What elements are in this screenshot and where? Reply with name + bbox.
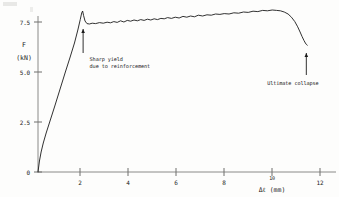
annotation-ultimate-collapse: Ultimate collapse xyxy=(267,53,318,87)
x-axis-title: Δℓ (mm) xyxy=(259,186,286,194)
y-axis-title-line1: F xyxy=(22,41,26,49)
y-tick-label-0: 0 xyxy=(27,169,31,176)
y-tick-label-2: 5.0 xyxy=(20,69,31,76)
x-tick-label-4: 10 xyxy=(269,175,275,181)
y-axis-title-line2: (kN) xyxy=(16,54,32,62)
y-tick-label-1: 2.5 xyxy=(20,119,31,126)
annotation-sharp-yield-line2: due to reinforcement xyxy=(90,63,150,69)
annotation-ultimate-collapse-line1: Ultimate collapse xyxy=(267,80,318,87)
chart-canvas: 7.5 5.0 2.5 0 2 4 6 8 10 12 F (kN) Δℓ (m… xyxy=(0,0,339,197)
x-tick-label-3: 8 xyxy=(222,179,226,186)
data-series-line xyxy=(38,10,307,172)
x-tick-label-5: 12 xyxy=(317,179,324,186)
x-tick-label-0: 2 xyxy=(78,179,82,186)
annotation-sharp-yield-line1: Sharp yield xyxy=(90,56,123,63)
x-tick-label-1: 4 xyxy=(126,179,130,186)
x-tick-label-2: 6 xyxy=(174,179,178,186)
annotation-sharp-yield: Sharp yield due to reinforcement xyxy=(81,29,150,69)
y-tick-label-3: 7.5 xyxy=(20,19,31,26)
load-displacement-figure: 7.5 5.0 2.5 0 2 4 6 8 10 12 F (kN) Δℓ (m… xyxy=(0,0,339,197)
